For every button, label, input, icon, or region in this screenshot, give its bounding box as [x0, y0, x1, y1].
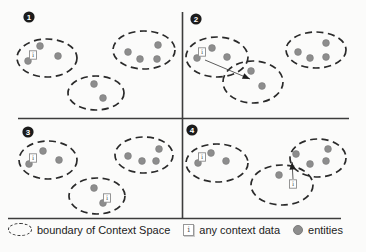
entity-dot	[155, 42, 162, 49]
svg-text:i: i	[106, 194, 108, 202]
panel-number: 3	[26, 128, 31, 137]
entity-dot	[323, 54, 330, 61]
context-space-figure: i1i2ii3ii4 boundary of Context Space i a…	[0, 0, 366, 252]
legend-item-entities: entities	[293, 224, 343, 236]
entity-dot	[224, 54, 231, 61]
entity-dot	[91, 81, 98, 88]
entity-dot	[55, 53, 62, 60]
entity-dot	[40, 148, 47, 155]
entity-dot	[295, 49, 302, 56]
entity-dot	[323, 40, 330, 47]
legend-item-context-data: i any context data	[183, 224, 280, 236]
legend-item-boundary: boundary of Context Space	[8, 223, 170, 236]
context-data-icon: i	[30, 51, 37, 60]
entity-dot	[293, 151, 300, 158]
panel-number: 4	[190, 126, 195, 135]
entity-dot-icon	[293, 225, 303, 235]
context-space-boundary	[290, 139, 346, 177]
entity-dot	[276, 172, 283, 179]
entity-dot	[156, 146, 163, 153]
context-data-icon: i	[290, 180, 297, 189]
panel-3: ii3	[19, 126, 173, 214]
context-space-boundary	[251, 165, 313, 205]
entity-dot	[325, 146, 332, 153]
panel-2: i2	[186, 13, 346, 103]
entity-dot	[323, 158, 330, 165]
entity-dot	[307, 55, 314, 62]
entity-dot	[307, 161, 314, 168]
entity-dot	[37, 43, 44, 50]
context-space-boundary	[115, 137, 173, 173]
entity-dot	[259, 83, 266, 90]
context-space-boundary	[223, 61, 283, 103]
entity-dot	[91, 185, 98, 192]
context-data-icon: i	[183, 224, 194, 236]
context-space-boundary	[113, 31, 175, 69]
entity-dot	[100, 95, 107, 102]
context-data-icon: i	[199, 48, 206, 57]
entity-dot	[248, 68, 255, 75]
svg-text:i: i	[201, 48, 203, 56]
context-data-icon: i	[199, 153, 206, 162]
entity-dot	[223, 158, 230, 165]
context-data-icon: i	[30, 154, 37, 163]
panel-4: ii4	[186, 124, 346, 205]
svg-text:i: i	[32, 154, 34, 162]
entity-dot	[137, 56, 144, 63]
panel-1: i1	[17, 11, 175, 110]
entity-dot	[209, 45, 216, 52]
entity-dot	[208, 150, 215, 157]
entity-dot	[154, 56, 161, 63]
legend-label-context-data: any context data	[199, 224, 280, 236]
context-space-diagram: i1i2ii3ii4	[0, 0, 366, 252]
context-data-icon: i	[104, 194, 111, 203]
dashed-ellipse-icon	[8, 223, 32, 236]
context-space-boundary	[19, 141, 77, 179]
entity-dot	[56, 157, 63, 164]
svg-text:i: i	[32, 51, 34, 59]
panel-number: 2	[194, 15, 199, 24]
svg-text:i: i	[292, 180, 294, 188]
entity-dot	[153, 158, 160, 165]
context-space-boundary	[69, 178, 125, 214]
legend: boundary of Context Space i any context …	[8, 223, 343, 236]
legend-label-boundary: boundary of Context Space	[37, 224, 170, 236]
entity-dot	[125, 49, 132, 56]
entity-dot	[139, 158, 146, 165]
svg-text:i: i	[201, 153, 203, 161]
legend-label-entities: entities	[308, 224, 343, 236]
arrowhead-icon	[242, 73, 250, 79]
panel-number: 1	[27, 13, 32, 22]
entity-dot	[125, 153, 132, 160]
